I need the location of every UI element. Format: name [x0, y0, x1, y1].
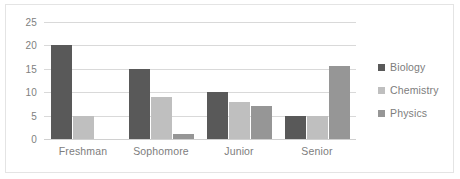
legend-label: Biology	[390, 61, 426, 73]
bar[interactable]	[51, 45, 72, 139]
bar-slot	[95, 22, 116, 139]
bar-slot	[73, 22, 94, 139]
bar-slot	[173, 22, 194, 139]
bar[interactable]	[173, 134, 194, 139]
bar[interactable]	[329, 66, 350, 139]
y-axis-tick-label: 5	[31, 110, 37, 121]
legend-label: Physics	[390, 107, 427, 119]
bar[interactable]	[73, 116, 94, 139]
legend-swatch-icon	[378, 110, 385, 117]
bar-group	[44, 22, 122, 139]
bar-slot	[285, 22, 306, 139]
legend-item[interactable]: Biology	[378, 61, 439, 73]
bar-slot	[207, 22, 228, 139]
legend-item[interactable]: Physics	[378, 107, 439, 119]
bar-slot	[329, 22, 350, 139]
legend-label: Chemistry	[390, 84, 439, 96]
bar-groups	[44, 22, 356, 139]
bar-group	[200, 22, 278, 139]
bar-slot	[251, 22, 272, 139]
gridline	[44, 139, 356, 140]
bar-group	[278, 22, 356, 139]
x-axis-category-label: Sophomore	[122, 145, 200, 157]
bar-group	[122, 22, 200, 139]
y-axis-tick-label: 20	[25, 40, 37, 51]
y-axis-tick-label: 0	[31, 134, 37, 145]
y-axis-tick-label: 10	[25, 87, 37, 98]
y-axis-tick-label: 25	[25, 17, 37, 28]
x-axis-category-label: Senior	[278, 145, 356, 157]
chart-legend: BiologyChemistryPhysics	[378, 61, 439, 119]
bar-slot	[151, 22, 172, 139]
bar-slot	[51, 22, 72, 139]
bar-slot	[229, 22, 250, 139]
legend-swatch-icon	[378, 87, 385, 94]
bar[interactable]	[307, 116, 328, 139]
bar[interactable]	[229, 102, 250, 139]
bar[interactable]	[207, 92, 228, 139]
bar-slot	[307, 22, 328, 139]
x-axis-category-label: Freshman	[44, 145, 122, 157]
bar[interactable]	[285, 116, 306, 139]
bar-slot	[129, 22, 150, 139]
x-axis-category-labels: FreshmanSophomoreJuniorSenior	[44, 145, 356, 157]
chart-container: 2520151050 FreshmanSophomoreJuniorSenior…	[5, 4, 454, 173]
bar[interactable]	[251, 106, 272, 139]
bar[interactable]	[129, 69, 150, 139]
legend-swatch-icon	[378, 64, 385, 71]
plot-area: 2520151050	[44, 22, 356, 139]
y-axis-tick-label: 15	[25, 63, 37, 74]
bar[interactable]	[151, 97, 172, 139]
legend-item[interactable]: Chemistry	[378, 84, 439, 96]
x-axis-category-label: Junior	[200, 145, 278, 157]
